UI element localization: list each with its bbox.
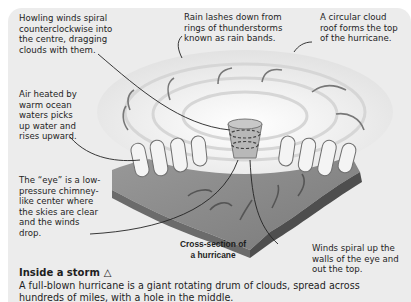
label-rain-lashes: Rain lashes down from rings of thunderst… <box>184 12 284 44</box>
label-howling-winds: Howling winds spiral counterclockwise in… <box>19 13 124 55</box>
eye-column <box>228 119 262 158</box>
label-winds-spiral-up: Winds spiral up the walls of the eye and… <box>312 243 404 275</box>
diagram-caption: Cross-section of a hurricane <box>177 239 249 261</box>
section-title-text: Inside a storm <box>19 267 100 278</box>
label-cloud-roof: A circular cloud roof forms the top of t… <box>320 12 404 44</box>
section-body: A full-blown hurricane is a giant rotati… <box>19 280 379 302</box>
label-eye: The “eye” is a low-pressure chimney-like… <box>19 175 103 239</box>
triangle-icon: △ <box>104 267 112 278</box>
label-air-heated: Air heated by warm ocean waters picks up… <box>19 89 83 142</box>
section-title: Inside a storm△ <box>19 267 112 278</box>
